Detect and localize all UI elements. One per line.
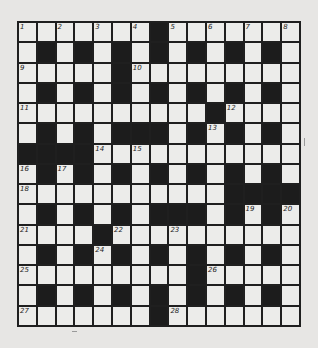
crossword-cell[interactable]: 14 [94, 145, 111, 163]
crossword-cell[interactable] [245, 266, 262, 284]
crossword-cell[interactable] [94, 307, 111, 325]
crossword-cell[interactable] [169, 43, 186, 61]
crossword-cell[interactable] [169, 124, 186, 142]
crossword-cell[interactable] [282, 43, 299, 61]
crossword-cell[interactable]: 11 [19, 104, 36, 122]
crossword-cell[interactable] [207, 145, 224, 163]
crossword-cell[interactable] [94, 104, 111, 122]
crossword-cell[interactable]: 2 [57, 23, 74, 41]
crossword-cell[interactable] [57, 266, 74, 284]
crossword-cell[interactable] [132, 104, 149, 122]
crossword-cell[interactable]: 19 [245, 205, 262, 223]
crossword-cell[interactable] [94, 43, 111, 61]
crossword-cell[interactable] [94, 205, 111, 223]
crossword-cell[interactable] [132, 205, 149, 223]
crossword-cell[interactable] [245, 104, 262, 122]
crossword-cell[interactable] [188, 226, 205, 244]
crossword-cell[interactable] [263, 104, 280, 122]
crossword-cell[interactable] [19, 246, 36, 264]
crossword-cell[interactable] [245, 145, 262, 163]
crossword-cell[interactable] [57, 64, 74, 82]
crossword-cell[interactable] [282, 286, 299, 304]
crossword-cell[interactable] [113, 307, 130, 325]
crossword-cell[interactable] [38, 104, 55, 122]
crossword-cell[interactable] [169, 165, 186, 183]
crossword-cell[interactable] [57, 84, 74, 102]
crossword-cell[interactable] [226, 64, 243, 82]
crossword-cell[interactable] [57, 43, 74, 61]
crossword-cell[interactable] [282, 307, 299, 325]
crossword-cell[interactable] [207, 226, 224, 244]
crossword-cell[interactable]: 16 [19, 165, 36, 183]
crossword-cell[interactable] [207, 165, 224, 183]
crossword-cell[interactable]: 13 [207, 124, 224, 142]
crossword-cell[interactable] [38, 307, 55, 325]
crossword-cell[interactable] [263, 64, 280, 82]
crossword-cell[interactable] [94, 185, 111, 203]
crossword-cell[interactable]: 18 [19, 185, 36, 203]
crossword-cell[interactable] [75, 266, 92, 284]
crossword-cell[interactable] [19, 205, 36, 223]
crossword-cell[interactable] [169, 64, 186, 82]
crossword-cell[interactable]: 5 [169, 23, 186, 41]
crossword-cell[interactable] [132, 266, 149, 284]
crossword-cell[interactable] [151, 145, 168, 163]
crossword-cell[interactable]: 3 [94, 23, 111, 41]
crossword-cell[interactable]: 26 [207, 266, 224, 284]
crossword-cell[interactable] [188, 64, 205, 82]
crossword-cell[interactable]: 22 [113, 226, 130, 244]
crossword-cell[interactable] [94, 266, 111, 284]
crossword-cell[interactable] [19, 286, 36, 304]
crossword-cell[interactable] [207, 64, 224, 82]
crossword-cell[interactable] [169, 246, 186, 264]
crossword-cell[interactable] [132, 43, 149, 61]
crossword-cell[interactable] [38, 23, 55, 41]
crossword-cell[interactable] [169, 104, 186, 122]
crossword-cell[interactable] [113, 266, 130, 284]
crossword-cell[interactable]: 15 [132, 145, 149, 163]
crossword-cell[interactable] [188, 185, 205, 203]
crossword-cell[interactable] [94, 64, 111, 82]
crossword-cell[interactable] [169, 84, 186, 102]
crossword-cell[interactable] [132, 226, 149, 244]
crossword-cell[interactable] [207, 246, 224, 264]
crossword-cell[interactable] [282, 124, 299, 142]
crossword-cell[interactable] [57, 307, 74, 325]
crossword-cell[interactable] [245, 165, 262, 183]
crossword-cell[interactable] [207, 185, 224, 203]
crossword-cell[interactable] [188, 145, 205, 163]
crossword-cell[interactable] [263, 266, 280, 284]
crossword-cell[interactable] [113, 104, 130, 122]
crossword-cell[interactable] [282, 165, 299, 183]
crossword-cell[interactable] [188, 23, 205, 41]
crossword-cell[interactable] [38, 185, 55, 203]
crossword-cell[interactable] [207, 286, 224, 304]
crossword-cell[interactable]: 12 [226, 104, 243, 122]
crossword-cell[interactable]: 8 [282, 23, 299, 41]
crossword-cell[interactable] [38, 266, 55, 284]
crossword-cell[interactable] [245, 246, 262, 264]
crossword-cell[interactable] [245, 64, 262, 82]
crossword-cell[interactable] [57, 205, 74, 223]
crossword-cell[interactable] [226, 23, 243, 41]
crossword-cell[interactable]: 10 [132, 64, 149, 82]
crossword-cell[interactable] [245, 307, 262, 325]
crossword-cell[interactable] [38, 64, 55, 82]
crossword-cell[interactable] [57, 104, 74, 122]
crossword-cell[interactable] [263, 307, 280, 325]
crossword-cell[interactable] [75, 23, 92, 41]
crossword-cell[interactable] [263, 145, 280, 163]
crossword-cell[interactable] [226, 266, 243, 284]
crossword-cell[interactable]: 20 [282, 205, 299, 223]
crossword-cell[interactable] [245, 226, 262, 244]
crossword-cell[interactable] [132, 84, 149, 102]
crossword-cell[interactable] [75, 307, 92, 325]
crossword-cell[interactable] [263, 23, 280, 41]
crossword-cell[interactable] [282, 246, 299, 264]
crossword-cell[interactable] [113, 23, 130, 41]
crossword-cell[interactable] [113, 185, 130, 203]
crossword-cell[interactable] [263, 226, 280, 244]
crossword-cell[interactable] [226, 307, 243, 325]
crossword-cell[interactable] [151, 64, 168, 82]
crossword-cell[interactable] [151, 185, 168, 203]
